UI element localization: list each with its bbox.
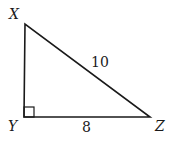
vertex-label-y: Y bbox=[8, 118, 19, 134]
vertex-label-z: Z bbox=[154, 118, 165, 134]
vertex-label-x: X bbox=[8, 6, 20, 22]
triangle-xyz bbox=[24, 24, 150, 117]
side-label-yz: 8 bbox=[82, 119, 91, 135]
triangle-diagram: X Y Z 10 8 bbox=[0, 0, 172, 141]
side-label-xz: 10 bbox=[91, 54, 109, 70]
right-angle-marker bbox=[24, 107, 34, 117]
